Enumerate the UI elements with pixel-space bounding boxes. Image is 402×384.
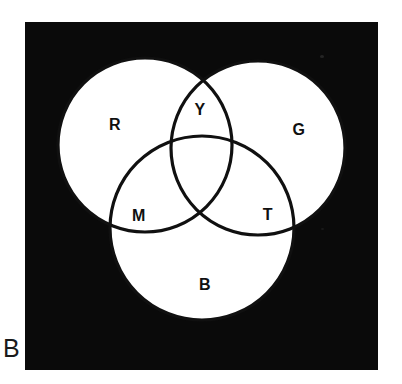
- figure-root: R G B Y M T B: [0, 0, 402, 384]
- scan-speck-icon: [321, 228, 324, 230]
- diagram-plate: R G B Y M T: [25, 22, 378, 370]
- panel-caption-label: B: [3, 336, 20, 361]
- scan-speck-icon: [320, 55, 324, 58]
- venn-circle-fills: [58, 58, 345, 320]
- venn-diagram-svg: [25, 22, 378, 370]
